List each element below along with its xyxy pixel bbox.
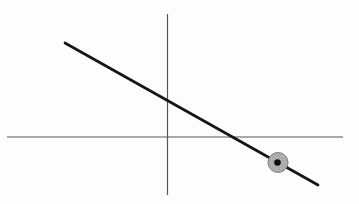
line-graph-figure xyxy=(0,0,359,204)
graph-svg xyxy=(0,0,359,204)
marked-point-dot xyxy=(274,159,281,166)
figure-canvas xyxy=(0,0,359,204)
